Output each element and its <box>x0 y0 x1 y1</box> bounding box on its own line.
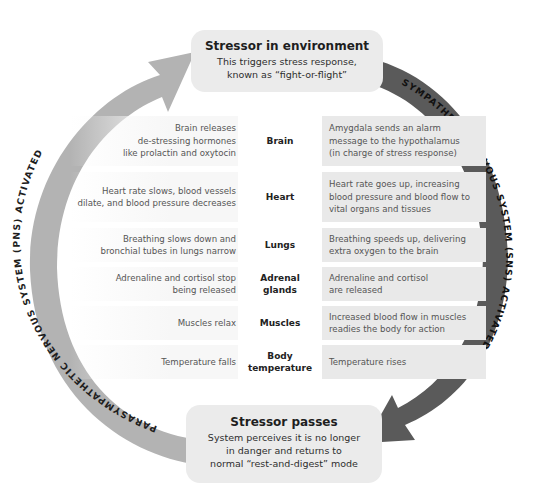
pns-effect: Temperature falls <box>70 345 238 379</box>
sns-effect: Adrenaline and cortisol are released <box>322 267 486 301</box>
organ-label: Muscles <box>238 306 322 340</box>
bottom-box-body: System perceives it is no longer in dang… <box>186 431 382 470</box>
row-muscles: Muscles relax Muscles Increased blood fl… <box>70 306 486 340</box>
organ-label: Adrenal glands <box>238 267 322 301</box>
pns-effect: Breathing slows down and bronchial tubes… <box>70 228 238 262</box>
organ-label: Lungs <box>238 228 322 262</box>
row-lungs: Breathing slows down and bronchial tubes… <box>70 228 486 262</box>
bottom-box-title: Stressor passes <box>186 415 382 429</box>
top-box-body: This triggers stress response, known as … <box>191 55 383 81</box>
pns-effect: Adrenaline and cortisol stop being relea… <box>70 267 238 301</box>
organ-label: Heart <box>238 172 322 222</box>
sns-effect: Breathing speeds up, delivering extra ox… <box>322 228 486 262</box>
row-brain: Brain releases de-stressing hormones lik… <box>70 116 486 166</box>
sns-effect: Increased blood flow in muscles readies … <box>322 306 486 340</box>
row-body-temperature: Temperature falls Body temperature Tempe… <box>70 345 486 379</box>
organ-label: Body temperature <box>238 345 322 379</box>
stressor-passes-box: Stressor passes System perceives it is n… <box>186 405 382 483</box>
pns-effect: Brain releases de-stressing hormones lik… <box>70 116 238 166</box>
organ-label: Brain <box>238 116 322 166</box>
top-box-title: Stressor in environment <box>191 39 383 53</box>
row-heart: Heart rate slows, blood vessels dilate, … <box>70 172 486 222</box>
row-adrenal-glands: Adrenaline and cortisol stop being relea… <box>70 267 486 301</box>
stressor-in-environment-box: Stressor in environment This triggers st… <box>191 30 383 92</box>
sns-effect: Temperature rises <box>322 345 486 379</box>
sns-effect: Heart rate goes up, increasing blood pre… <box>322 172 486 222</box>
pns-effect: Heart rate slows, blood vessels dilate, … <box>70 172 238 222</box>
pns-effect: Muscles relax <box>70 306 238 340</box>
sns-effect: Amygdala sends an alarm message to the h… <box>322 116 486 166</box>
